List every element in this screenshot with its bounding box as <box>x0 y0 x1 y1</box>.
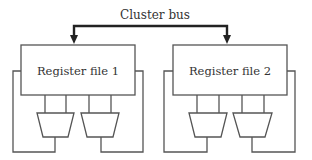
alu-3-icon <box>189 113 227 137</box>
cluster-2 <box>164 45 295 152</box>
alu-4-icon <box>233 113 272 137</box>
cluster-bus <box>74 26 227 38</box>
cluster-diagram: Cluster bus Register file 1 R <box>0 0 312 160</box>
register-file-2-label: Register file 2 <box>189 64 271 78</box>
cluster-bus-label: Cluster bus <box>120 8 190 22</box>
alu-2-icon <box>81 113 119 137</box>
alu-1-icon <box>37 113 74 137</box>
register-file-1-label: Register file 1 <box>37 64 119 78</box>
bus-arrow-left-icon <box>70 35 78 44</box>
cluster-1 <box>13 45 143 152</box>
bus-arrow-right-icon <box>223 35 231 44</box>
